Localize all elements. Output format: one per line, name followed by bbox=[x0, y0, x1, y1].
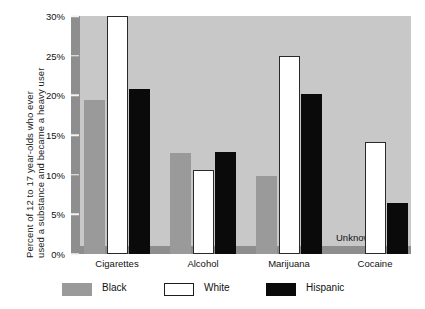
bar-alcohol-white bbox=[193, 170, 214, 254]
bar-cocaine-white bbox=[365, 142, 386, 254]
y-tick-mark bbox=[71, 95, 79, 97]
bar-marijuana-black bbox=[256, 176, 277, 254]
bar-chart-figure: Percent of 12 to 17 year-olds who ever u… bbox=[0, 0, 425, 309]
y-tick-mark bbox=[71, 253, 79, 255]
bar-cocaine-hispanic bbox=[387, 203, 408, 254]
bar-marijuana-hispanic bbox=[301, 94, 322, 254]
x-category-label: Marijuana bbox=[268, 258, 310, 269]
y-tick-mark bbox=[71, 134, 79, 136]
legend-label: Black bbox=[102, 282, 126, 293]
bar-alcohol-black bbox=[170, 153, 191, 254]
y-tick-mark bbox=[71, 15, 79, 17]
bar-cigarettes-black bbox=[84, 100, 105, 254]
hispanic-swatch bbox=[266, 283, 296, 296]
y-tick-mark bbox=[71, 214, 79, 216]
y-tick-mark bbox=[71, 174, 79, 176]
bar-cigarettes-hispanic bbox=[129, 89, 150, 254]
bar-cigarettes-white bbox=[107, 16, 128, 254]
bar-marijuana-white bbox=[279, 56, 300, 254]
legend-label: White bbox=[204, 282, 230, 293]
bars-layer: CigarettesAlcoholMarijuanaUnknownCocaine bbox=[0, 0, 425, 309]
x-category-label: Cocaine bbox=[358, 258, 393, 269]
bar-alcohol-hispanic bbox=[215, 152, 236, 254]
chart-legend: BlackWhiteHispanic bbox=[0, 282, 425, 304]
legend-label: Hispanic bbox=[306, 282, 344, 293]
black-swatch bbox=[62, 283, 92, 296]
x-category-label: Alcohol bbox=[187, 258, 218, 269]
x-category-label: Cigarettes bbox=[95, 258, 138, 269]
y-tick-mark bbox=[71, 55, 79, 57]
white-swatch bbox=[164, 283, 194, 296]
